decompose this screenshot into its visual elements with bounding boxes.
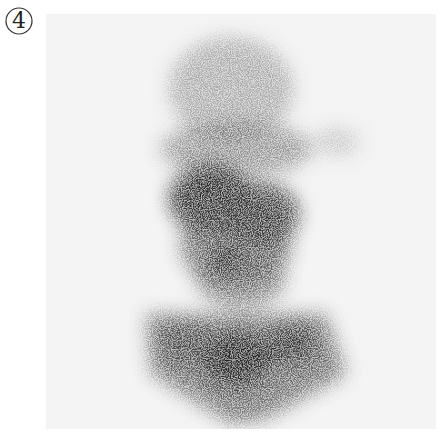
panel-number-label: 4: [4, 6, 34, 36]
panel-number-text: 4: [12, 10, 26, 32]
scan-image-graphic: [46, 14, 436, 429]
scintigraphy-image: [46, 14, 436, 429]
